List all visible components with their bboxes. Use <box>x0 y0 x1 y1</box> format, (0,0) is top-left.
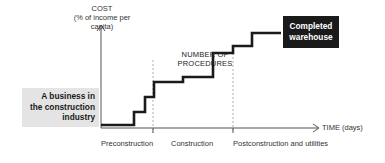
end-label-line: Completed <box>283 21 339 32</box>
procedures-step-line <box>101 33 281 125</box>
y-axis-subtitle: (% of income per capita) <box>62 13 142 31</box>
start-label-line: A business in <box>22 91 95 102</box>
procedures-label-line: NUMBER OF <box>170 50 240 59</box>
end-label-line: warehouse <box>283 32 339 43</box>
y-axis-label: COST (% of income per capita) <box>62 4 142 31</box>
y-axis-title: COST <box>62 4 142 13</box>
procedures-label: NUMBER OF PROCEDURES <box>170 50 240 68</box>
phase-label-construction: Construction <box>171 139 213 148</box>
phase-label-preconstruction: Preconstruction <box>101 139 153 148</box>
start-label-box: A business in the construction industry <box>22 88 99 127</box>
start-label-line: the construction <box>22 102 95 113</box>
phase-label-postconstruction: Postconstruction and utilities <box>233 139 328 148</box>
end-label-box: Completed warehouse <box>283 16 339 48</box>
procedures-label-line: PROCEDURES <box>170 59 240 68</box>
x-axis-label: TIME (days) <box>322 123 363 132</box>
start-label-line: industry <box>22 112 95 123</box>
